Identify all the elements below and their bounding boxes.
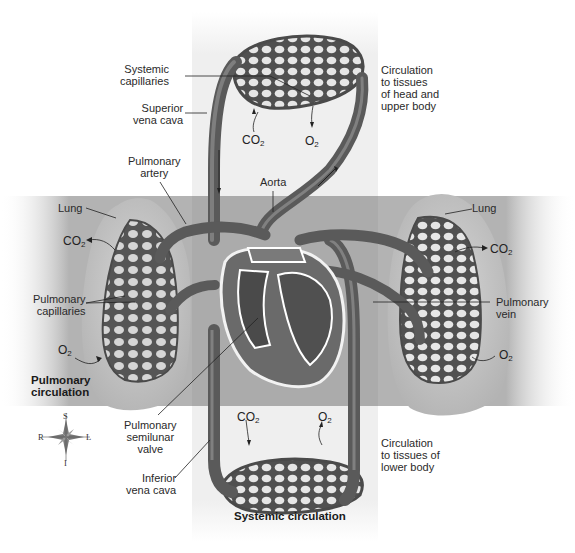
label-pulmonary-semilunar-valve: Pulmonary semilunar valve: [124, 419, 177, 455]
compass-left: L: [86, 432, 91, 442]
label-pulmonary-vein: Pulmonary vein: [496, 296, 549, 320]
label-circulation-upper-body: Circulation to tissues of head and upper…: [381, 64, 439, 112]
label-lung-right-anatomical: Lung: [58, 202, 82, 214]
gas-co2-left-lung: CO2: [490, 242, 512, 257]
gas-co2-lower: CO2: [237, 410, 259, 425]
label-pulmonary-artery: Pulmonary artery: [128, 155, 181, 179]
label-pulmonary-circulation: Pulmonary circulation: [31, 374, 90, 398]
pulmonary-capillaries-left: [400, 217, 481, 383]
gas-co2-upper: CO2: [242, 133, 264, 148]
gas-o2-right-lung: O2: [58, 343, 72, 358]
label-inferior-vena-cava: Inferior vena cava: [126, 472, 176, 496]
label-circulation-lower-body: Circulation to tissues of lower body: [381, 437, 440, 473]
diagram-artwork: [0, 0, 575, 553]
compass-superior: S: [63, 411, 68, 421]
gas-o2-upper: O2: [305, 134, 319, 149]
label-pulmonary-capillaries: Pulmonary capillaries: [33, 293, 86, 317]
label-systemic-capillaries: Systemic capillaries: [120, 63, 169, 87]
gas-co2-right-lung: CO2: [63, 234, 85, 249]
label-superior-vena-cava: Superior vena cava: [133, 102, 183, 126]
label-aorta: Aorta: [260, 176, 286, 188]
label-lung-left-anatomical: Lung: [472, 202, 496, 214]
gas-o2-lower: O2: [318, 410, 332, 425]
gas-o2-left-lung: O2: [499, 348, 513, 363]
label-systemic-circulation: Systemic circulation: [234, 510, 346, 522]
compass-inferior: I: [64, 458, 67, 468]
compass-right: R: [38, 432, 44, 442]
circulation-diagram: Systemic capillaries Superior vena cava …: [0, 0, 575, 553]
